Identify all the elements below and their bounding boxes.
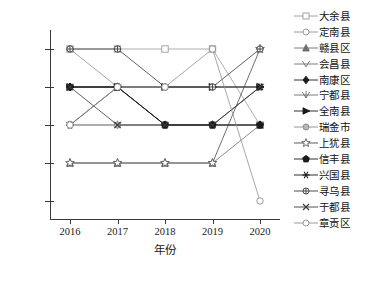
legend-marker-icon <box>293 73 319 87</box>
legend-item-全南县[interactable]: 全南县 <box>293 103 377 119</box>
legend-label: 上犹县 <box>319 137 350 149</box>
legend-item-于都县[interactable]: 于都县 <box>293 199 377 215</box>
legend-marker-icon <box>293 120 319 134</box>
legend-label: 信丰县 <box>319 153 350 165</box>
chart-legend: 大余县定南县赣县区会昌县南康区宁都县全南县瑞金市上犹县信丰县兴国县寻乌县于都县章… <box>293 8 377 230</box>
legend-item-章贡区[interactable]: 章贡区 <box>293 215 377 231</box>
legend-marker-icon <box>293 200 319 214</box>
legend-item-瑞金市[interactable]: 瑞金市 <box>293 119 377 135</box>
axes: 1234520162017201820192020 <box>50 30 280 220</box>
legend-marker-icon <box>293 41 319 55</box>
legend-marker-icon <box>293 104 319 118</box>
series-layer <box>50 30 280 220</box>
legend-item-赣县区[interactable]: 赣县区 <box>293 40 377 56</box>
legend-label: 瑞金市 <box>319 121 350 133</box>
legend-label: 全南县 <box>319 105 350 117</box>
legend-label: 南康区 <box>319 74 350 86</box>
legend-item-定南县[interactable]: 定南县 <box>293 24 377 40</box>
legend-item-上犹县[interactable]: 上犹县 <box>293 135 377 151</box>
legend-label: 章贡区 <box>319 217 350 229</box>
legend-label: 于都县 <box>319 201 350 213</box>
legend-label: 兴国县 <box>319 169 350 181</box>
legend-marker-icon <box>293 136 319 150</box>
plot-area: 耕地等级 1234520162017201820192020 年份 <box>0 0 292 281</box>
legend-label: 宁都县 <box>319 89 350 101</box>
legend-marker-icon <box>293 216 319 230</box>
legend-marker-icon <box>293 168 319 182</box>
chart-root: 耕地等级 1234520162017201820192020 年份 大余县定南县… <box>0 0 377 281</box>
legend-marker-icon <box>293 25 319 39</box>
legend-marker-icon <box>293 184 319 198</box>
legend-item-南康区[interactable]: 南康区 <box>293 72 377 88</box>
legend-marker-icon <box>293 57 319 71</box>
x-tick-label: 2020 <box>230 226 290 237</box>
legend-item-寻乌县[interactable]: 寻乌县 <box>293 183 377 199</box>
series-上犹县 <box>66 44 265 166</box>
legend-label: 会昌县 <box>319 58 350 70</box>
legend-label: 赣县区 <box>319 42 350 54</box>
legend-label: 定南县 <box>319 26 350 38</box>
legend-label: 寻乌县 <box>319 185 350 197</box>
legend-item-会昌县[interactable]: 会昌县 <box>293 56 377 72</box>
legend-item-信丰县[interactable]: 信丰县 <box>293 151 377 167</box>
legend-marker-icon <box>293 88 319 102</box>
legend-item-宁都县[interactable]: 宁都县 <box>293 87 377 103</box>
legend-item-大余县[interactable]: 大余县 <box>293 8 377 24</box>
x-axis-title: 年份 <box>50 244 280 257</box>
legend-marker-icon <box>293 152 319 166</box>
legend-marker-icon <box>293 9 319 23</box>
legend-label: 大余县 <box>319 10 350 22</box>
legend-item-兴国县[interactable]: 兴国县 <box>293 167 377 183</box>
